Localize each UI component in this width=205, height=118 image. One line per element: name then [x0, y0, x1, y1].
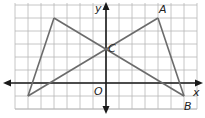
point-label-c: C [108, 42, 116, 55]
y-axis-label: y [94, 2, 102, 15]
x-axis-left-arrow-icon [3, 80, 11, 87]
y-axis-up-arrow-icon [103, 2, 110, 10]
point-label-b: B [184, 100, 192, 113]
y-axis-down-arrow-icon [103, 106, 110, 114]
coordinate-figure: y x O A B C [0, 0, 205, 118]
x-axis-label: x [192, 86, 200, 99]
axes [3, 2, 203, 114]
point-label-a: A [158, 3, 167, 16]
origin-label: O [94, 85, 103, 98]
